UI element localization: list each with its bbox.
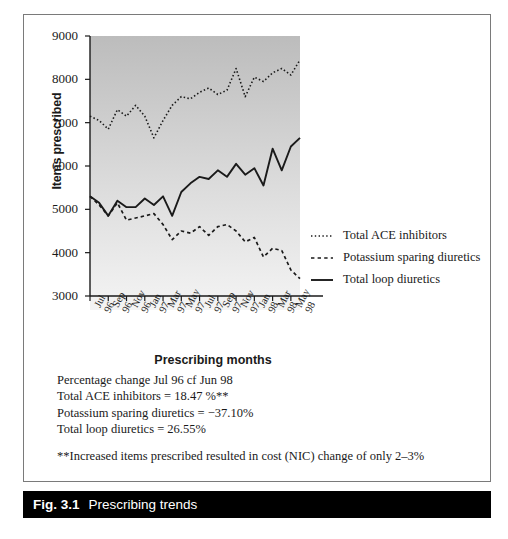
y-axis-ticks <box>85 36 90 296</box>
y-axis-tick-label: 3000 <box>32 289 78 302</box>
y-axis-tick-label: 9000 <box>32 29 78 42</box>
dashed-line-icon <box>310 253 334 263</box>
legend-item-potassium: Potassium sparing diuretics <box>310 247 490 268</box>
figure-root: Items prescribed Prescribing months 3000… <box>0 0 508 539</box>
x-axis-title: Prescribing months <box>83 353 343 367</box>
legend-label-potassium: Potassium sparing diuretics <box>343 250 481 265</box>
note-potassium-change: Potassium sparing diuretics = −37.10% <box>57 405 477 421</box>
y-axis-tick-label: 6000 <box>32 159 78 172</box>
note-loop-change: Total loop diuretics = 26.55% <box>57 421 477 437</box>
legend-label-loop: Total loop diuretics <box>343 272 440 287</box>
solid-line-icon <box>310 275 334 285</box>
chart-legend: Total ACE inhibitors Potassium sparing d… <box>310 225 490 291</box>
y-axis-tick-label: 7000 <box>32 116 78 129</box>
figure-caption-text: Prescribing trends <box>89 497 198 512</box>
figure-notes: Percentage change Jul 96 cf Jun 98 Total… <box>57 372 477 464</box>
legend-item-ace: Total ACE inhibitors <box>310 225 490 246</box>
note-footnote: **Increased items prescribed resulted in… <box>57 448 477 464</box>
y-axis-tick-label: 8000 <box>32 72 78 85</box>
legend-label-ace: Total ACE inhibitors <box>343 228 447 243</box>
figure-number: Fig. 3.1 <box>33 497 80 512</box>
note-percentage-change: Percentage change Jul 96 cf Jun 98 <box>57 372 477 388</box>
legend-item-loop: Total loop diuretics <box>310 269 490 290</box>
note-ace-change: Total ACE inhibitors = 18.47 %** <box>57 388 477 404</box>
dotted-line-icon <box>310 231 334 241</box>
note-spacer <box>57 438 477 448</box>
figure-caption-bar: Fig. 3.1 Prescribing trends <box>23 491 491 518</box>
y-axis-tick-label: 5000 <box>32 202 78 215</box>
y-axis-tick-label: 4000 <box>32 246 78 259</box>
prescribing-trends-chart: Items prescribed Prescribing months 3000… <box>23 14 491 374</box>
